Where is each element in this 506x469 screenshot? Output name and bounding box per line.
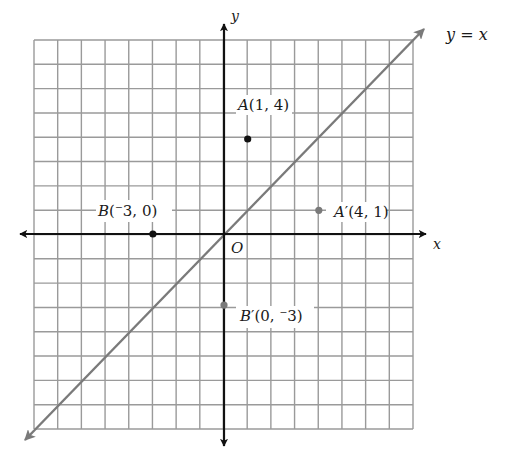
point-b-prime-neg-y: ⁻3 bbox=[279, 307, 296, 325]
line-equation-label: y = x bbox=[445, 25, 488, 44]
point-a-name: A bbox=[236, 96, 249, 114]
point-b-rest: , 0) bbox=[132, 202, 157, 220]
line-label-x: x bbox=[479, 25, 488, 44]
point-a-prime-dot bbox=[315, 207, 322, 214]
point-b-name: B bbox=[97, 202, 109, 220]
y-axis-label: y bbox=[230, 8, 240, 24]
point-a-label: A(1, 4) bbox=[236, 96, 289, 114]
origin-label: O bbox=[231, 239, 243, 257]
point-b-prime-name: B bbox=[239, 307, 251, 325]
coordinate-plane-figure: y x O y = x A(1, 4) B(⁻3, 0) A′(4, 1) B′… bbox=[0, 0, 506, 469]
point-b-prime: B′(0, ⁻3) bbox=[220, 302, 314, 329]
point-a-coords: (1, 4) bbox=[249, 96, 289, 114]
point-a: A(1, 4) bbox=[236, 95, 292, 143]
point-b-prime-open: (0, bbox=[254, 307, 279, 325]
x-axis-label: x bbox=[433, 236, 441, 252]
point-b-neg-x: ⁻3 bbox=[115, 202, 132, 220]
coordinate-plane-svg: y x O y = x A(1, 4) B(⁻3, 0) A′(4, 1) B′… bbox=[0, 0, 506, 469]
point-a-dot bbox=[244, 135, 251, 142]
point-a-prime-coords: (4, 1) bbox=[348, 203, 388, 221]
point-b-prime-label: B′(0, ⁻3) bbox=[239, 307, 303, 325]
line-label-eq: = bbox=[455, 25, 479, 44]
point-b-prime-rest: ) bbox=[297, 307, 303, 325]
point-b: B(⁻3, 0) bbox=[96, 200, 172, 238]
point-a-prime: A′(4, 1) bbox=[315, 202, 388, 222]
point-b-label: B(⁻3, 0) bbox=[97, 202, 157, 220]
point-a-prime-name: A bbox=[332, 203, 345, 221]
point-a-prime-label: A′(4, 1) bbox=[332, 203, 389, 221]
point-b-dot bbox=[149, 230, 156, 237]
point-b-prime-dot bbox=[220, 302, 227, 309]
